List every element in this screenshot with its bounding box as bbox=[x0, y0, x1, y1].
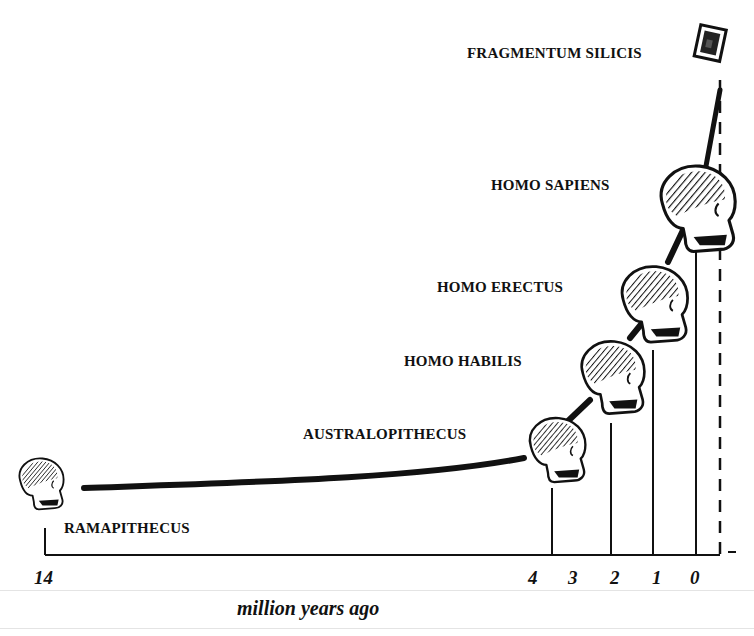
label-homo-habilis: HOMO HABILIS bbox=[404, 353, 522, 370]
tick-1: 1 bbox=[652, 567, 662, 589]
divider-top bbox=[0, 590, 754, 591]
skull-australopithecus-icon bbox=[530, 418, 586, 482]
tick-2: 2 bbox=[610, 567, 620, 589]
label-homo-sapiens: HOMO SAPIENS bbox=[491, 177, 610, 194]
tick-0: 0 bbox=[690, 567, 700, 589]
tick-3: 3 bbox=[568, 567, 578, 589]
evolution-diagram bbox=[0, 0, 754, 636]
skull-homo-sapiens-icon bbox=[661, 166, 735, 251]
tick-14: 14 bbox=[34, 567, 53, 589]
skull-homo-erectus-icon bbox=[622, 267, 687, 343]
tick-4: 4 bbox=[528, 567, 538, 589]
label-ramapithecus: RAMAPITHECUS bbox=[64, 520, 190, 537]
label-fragmentum-silicis: FRAGMENTUM SILICIS bbox=[467, 45, 642, 62]
axis-title: million years ago bbox=[237, 597, 379, 620]
label-homo-erectus: HOMO ERECTUS bbox=[437, 279, 563, 296]
skull-ramapithecus-icon bbox=[19, 458, 63, 509]
divider-bottom bbox=[0, 628, 754, 629]
label-australopithecus: AUSTRALOPITHECUS bbox=[303, 426, 466, 443]
silicon-chip-icon bbox=[694, 25, 726, 62]
